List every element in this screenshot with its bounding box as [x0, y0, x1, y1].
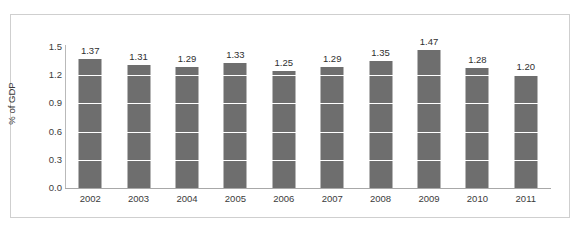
y-axis-tick-labels: 1.51.20.90.60.30.0 — [22, 0, 62, 228]
bar-value-label: 1.25 — [275, 57, 294, 68]
y-tick-label: 1.5 — [28, 42, 62, 52]
bar-value-label: 1.33 — [226, 49, 245, 60]
bar[interactable] — [175, 67, 198, 188]
x-tick-label: 2009 — [405, 193, 453, 204]
gridline — [66, 103, 550, 104]
x-tick-label: 2007 — [308, 193, 356, 204]
bar[interactable] — [321, 67, 344, 188]
bar-value-label: 1.47 — [420, 36, 439, 47]
bar[interactable] — [127, 65, 150, 188]
gridline — [66, 75, 550, 76]
x-tick-label: 2003 — [114, 193, 162, 204]
y-axis-title: % of GDP — [6, 74, 17, 134]
y-tick-label: 0.6 — [28, 127, 62, 137]
bar-value-label: 1.35 — [371, 47, 390, 58]
x-tick-label: 2008 — [356, 193, 404, 204]
bar[interactable] — [466, 68, 489, 188]
x-tick-label: 2002 — [66, 193, 114, 204]
x-tick-label: 2011 — [502, 193, 550, 204]
bar[interactable] — [369, 61, 392, 188]
bar[interactable] — [272, 71, 295, 189]
x-tick-label: 2005 — [211, 193, 259, 204]
gridline — [66, 160, 550, 161]
bar-value-label: 1.37 — [81, 45, 100, 56]
gridline — [66, 132, 550, 133]
gridline — [66, 47, 550, 48]
bar[interactable] — [224, 63, 247, 188]
y-tick-label: 0.3 — [28, 155, 62, 165]
x-tick-label: 2006 — [260, 193, 308, 204]
bar-value-label: 1.28 — [468, 54, 487, 65]
bar-value-label: 1.20 — [517, 61, 536, 72]
bar[interactable] — [417, 50, 440, 188]
x-tick-label: 2004 — [163, 193, 211, 204]
y-tick-label: 0.0 — [28, 183, 62, 193]
bar-value-label: 1.29 — [178, 53, 197, 64]
y-tick-label: 0.9 — [28, 98, 62, 108]
y-tick-label: 1.2 — [28, 70, 62, 80]
bar[interactable] — [79, 59, 102, 188]
x-tick-label: 2010 — [453, 193, 501, 204]
bar-value-label: 1.29 — [323, 53, 342, 64]
bar-value-label: 1.31 — [129, 51, 148, 62]
